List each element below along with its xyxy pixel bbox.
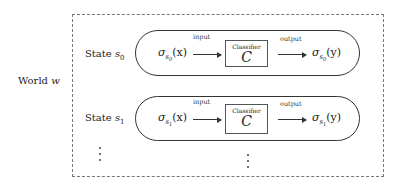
state-1-classifier-box: Classifier C [225, 104, 268, 134]
state-1-input-arrow [193, 119, 221, 120]
state-1-label: State s1 [85, 112, 125, 126]
world-variable: w [51, 75, 60, 86]
state-1-output-arrow [278, 119, 306, 120]
state-1-input-label: input [193, 98, 210, 106]
state-0-subscript: 0 [120, 54, 124, 62]
states-ellipsis-left [98, 147, 102, 161]
state-1-label-text: State [85, 112, 112, 123]
state-1-subscript: 1 [120, 118, 124, 126]
state-0-output-label: output [280, 35, 302, 43]
state-0-label-text: State [85, 48, 112, 59]
state-1-input-expression: σs1(x) [158, 111, 187, 128]
classifier-ellipsis [246, 154, 250, 168]
state-0-classifier-variable: C [226, 50, 267, 64]
state-0-output-expression: σs0(y) [312, 46, 341, 63]
state-0-input-expression: σs0(x) [158, 46, 187, 63]
world-label: World w [18, 75, 60, 86]
state-0-label: State s0 [85, 48, 125, 62]
world-label-text: World [18, 75, 48, 86]
state-1-classifier-variable: C [226, 114, 267, 128]
state-0-input-label: input [193, 33, 210, 41]
state-1-output-label: output [280, 100, 302, 108]
state-1-output-expression: σs1(y) [312, 111, 341, 128]
state-0-input-arrow [193, 54, 221, 55]
state-0-classifier-box: Classifier C [225, 40, 268, 67]
state-0-output-arrow [278, 54, 306, 55]
